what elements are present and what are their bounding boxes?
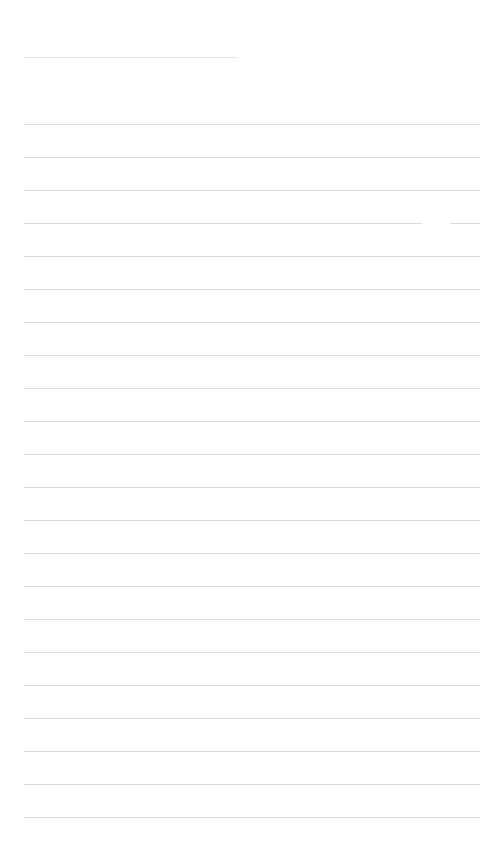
ruled-line <box>24 223 480 224</box>
ruled-line <box>24 322 480 323</box>
ruled-line <box>24 784 480 785</box>
ruled-line <box>24 124 480 125</box>
ruled-line <box>24 256 480 257</box>
ruled-line <box>24 619 480 620</box>
ruled-line <box>24 652 480 653</box>
ruled-line <box>24 289 480 290</box>
ruled-line <box>24 487 480 488</box>
ruled-line <box>24 190 480 191</box>
ruled-line <box>24 718 480 719</box>
ruled-line <box>24 685 480 686</box>
ruled-line <box>24 520 480 521</box>
title-line <box>24 57 237 58</box>
ruled-line <box>24 454 480 455</box>
ruled-line <box>24 751 480 752</box>
ruled-line <box>24 388 480 389</box>
ruled-line <box>24 553 480 554</box>
line-gap <box>422 222 450 225</box>
ruled-line <box>24 157 480 158</box>
ruled-line <box>24 355 480 356</box>
ruled-line <box>24 586 480 587</box>
ruled-line <box>24 817 480 818</box>
ruled-line <box>24 421 480 422</box>
